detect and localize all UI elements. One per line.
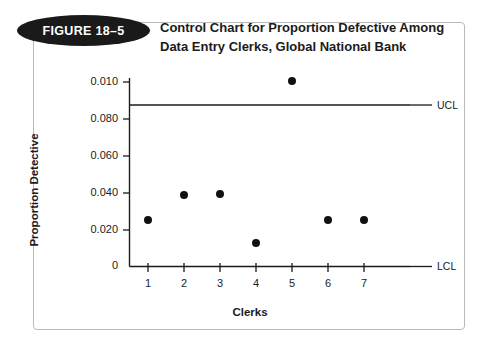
figure-number-label: FIGURE 18–5	[43, 24, 125, 38]
figure-title-line-2: Data Entry Clerks, Global National Bank	[160, 37, 460, 56]
figure-panel	[33, 22, 465, 330]
figure-title-line-1: Control Chart for Proportion Defective A…	[160, 18, 460, 37]
figure-title: Control Chart for Proportion Defective A…	[160, 18, 460, 56]
figure-number-badge: FIGURE 18–5	[17, 15, 150, 46]
